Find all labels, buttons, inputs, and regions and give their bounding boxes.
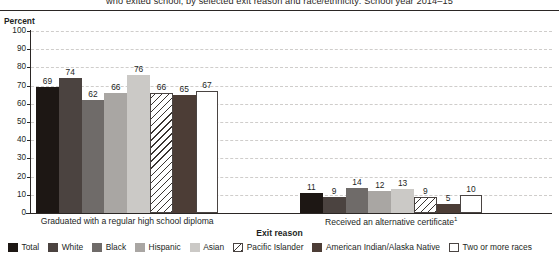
bar-value-label-0-5: 66 [150,82,173,92]
x-axis-group-label-alternative: Received an alternative certificate1 [271,216,511,227]
y-tick-label-70: 70 [2,81,26,90]
bar-1-2 [346,188,369,213]
y-tick-mark-0 [27,213,31,214]
footnote-marker: 1 [454,216,457,222]
gridline-100 [31,31,552,32]
gridline-90 [31,49,552,50]
legend-item-1[interactable]: White [48,242,83,252]
legend-swatch-icon-4 [190,243,200,252]
x-axis-group-label-graduated: Graduated with a regular high school dip… [7,216,247,226]
y-tick-label-10: 10 [2,190,26,199]
bar-1-0 [300,193,323,213]
legend-item-5[interactable]: Pacific Islander [233,242,303,252]
y-tick-mark-70 [27,86,31,87]
bar-value-label-0-4: 76 [127,64,150,74]
legend-label-1: White [62,242,83,252]
legend-item-6[interactable]: American Indian/Alaska Native [312,242,440,252]
legend-swatch-icon-2 [92,243,102,252]
y-tick-label-60: 60 [2,99,26,108]
bar-0-7 [196,91,219,213]
bar-0-0 [36,87,59,213]
bar-1-3 [368,191,391,213]
bar-0-3 [104,93,127,213]
y-tick-label-40: 40 [2,135,26,144]
bar-0-5 [150,93,173,213]
bar-1-1 [323,197,346,213]
legend-item-3[interactable]: Hispanic [135,242,181,252]
legend-label-5: Pacific Islander [247,242,304,252]
legend-swatch-icon-1 [48,243,58,252]
bar-value-label-1-1: 9 [323,186,346,196]
x-axis-line [26,213,552,214]
bar-value-label-1-2: 14 [346,177,369,187]
y-tick-label-80: 80 [2,62,26,71]
bar-1-5 [414,197,437,213]
y-tick-mark-60 [27,104,31,105]
title-divider [0,10,559,11]
bar-value-label-1-0: 11 [300,182,323,192]
bar-value-label-0-7: 67 [196,80,219,90]
legend-label-2: Black [106,242,126,252]
y-tick-label-30: 30 [2,153,26,162]
bar-value-label-0-0: 69 [36,76,59,86]
legend-swatch-icon-7 [449,243,459,252]
bar-value-label-1-3: 12 [368,180,391,190]
bar-value-label-1-7: 10 [460,184,483,194]
legend-label-7: Two or more races [463,242,532,252]
bar-1-7 [460,195,483,213]
bar-0-6 [173,95,196,213]
legend-swatch-icon-3 [135,243,145,252]
y-tick-mark-90 [27,49,31,50]
legend-item-2[interactable]: Black [92,242,126,252]
bar-1-6 [437,204,460,213]
y-tick-mark-30 [27,158,31,159]
bar-value-label-0-6: 65 [173,84,196,94]
bar-0-2 [82,100,105,213]
y-tick-label-100: 100 [2,26,26,35]
y-tick-mark-10 [27,195,31,196]
y-tick-mark-100 [27,31,31,32]
bar-value-label-1-4: 13 [391,178,414,188]
bar-value-label-0-3: 66 [104,82,127,92]
bar-0-1 [59,78,82,213]
legend-label-0: Total [22,242,40,252]
y-tick-label-90: 90 [2,44,26,53]
legend-item-7[interactable]: Two or more races [449,242,532,252]
bar-value-label-1-6: 5 [437,193,460,203]
bar-0-4 [127,75,150,213]
legend-label-6: American Indian/Alaska Native [326,242,440,252]
x-axis-title: Exit reason [0,228,559,238]
legend-swatch-icon-0 [8,243,18,252]
bar-value-label-1-5: 9 [414,186,437,196]
bar-value-label-0-2: 62 [82,89,105,99]
y-axis-label: Percent [4,16,35,26]
bar-1-4 [391,189,414,213]
legend-item-4[interactable]: Asian [190,242,224,252]
y-tick-mark-40 [27,140,31,141]
gridline-80 [31,67,552,68]
legend-label-4: Asian [203,242,224,252]
legend-item-0[interactable]: Total [8,242,39,252]
y-tick-label-50: 50 [2,117,26,126]
legend-label-3: Hispanic [149,242,181,252]
bar-value-label-0-1: 74 [59,67,82,77]
legend-swatch-icon-5 [233,243,243,252]
y-tick-label-20: 20 [2,172,26,181]
y-tick-mark-20 [27,177,31,178]
y-tick-mark-50 [27,122,31,123]
y-tick-mark-80 [27,67,31,68]
legend-swatch-icon-6 [312,243,322,252]
chart-title: who exited school, by selected exit reas… [0,0,559,6]
legend: TotalWhiteBlackHispanicAsianPacific Isla… [8,242,553,252]
